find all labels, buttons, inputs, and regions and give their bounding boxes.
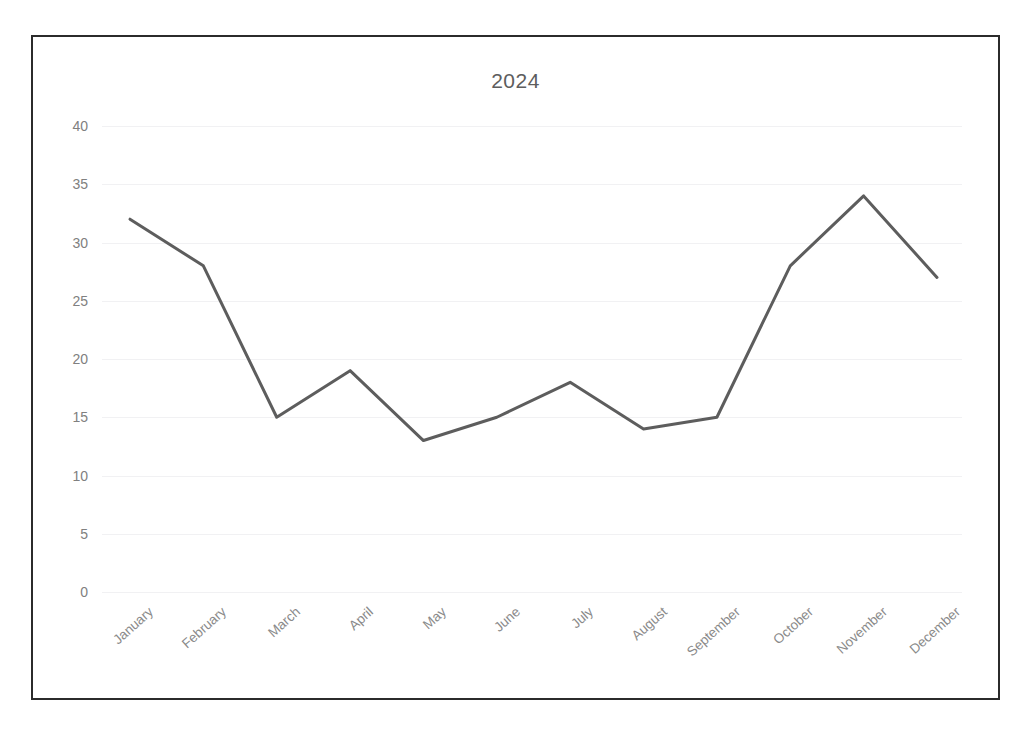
- plot-area: 0510152025303540 JanuaryFebruaryMarchApr…: [102, 126, 962, 592]
- x-tick-label-september: September: [684, 604, 743, 659]
- x-tick-label-june: June: [491, 604, 523, 635]
- y-tick-label-5: 5: [80, 526, 88, 542]
- x-tick-label-october: October: [771, 604, 817, 647]
- y-tick-label-15: 15: [72, 409, 88, 425]
- series-polyline: [130, 196, 937, 441]
- chart-title: 2024: [33, 69, 998, 93]
- x-tick-label-january: January: [110, 604, 156, 647]
- chart-frame: 2024 0510152025303540 JanuaryFebruaryMar…: [31, 35, 1000, 700]
- x-tick-label-february: February: [179, 604, 229, 651]
- x-tick-label-august: August: [628, 604, 669, 643]
- y-tick-label-30: 30: [72, 235, 88, 251]
- gridline-0: [102, 592, 962, 593]
- line-series-2024: [102, 126, 962, 592]
- x-tick-label-november: November: [833, 604, 889, 657]
- x-tick-label-may: May: [420, 604, 449, 632]
- y-tick-label-35: 35: [72, 176, 88, 192]
- y-tick-label-0: 0: [80, 584, 88, 600]
- x-tick-label-march: March: [265, 604, 303, 640]
- y-tick-label-20: 20: [72, 351, 88, 367]
- y-tick-label-10: 10: [72, 468, 88, 484]
- x-tick-label-july: July: [568, 604, 596, 631]
- x-tick-label-april: April: [346, 604, 376, 633]
- x-tick-label-december: December: [907, 604, 963, 657]
- y-tick-label-25: 25: [72, 293, 88, 309]
- y-tick-label-40: 40: [72, 118, 88, 134]
